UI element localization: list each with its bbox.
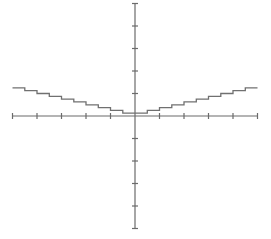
step-function-chart [0, 0, 271, 239]
